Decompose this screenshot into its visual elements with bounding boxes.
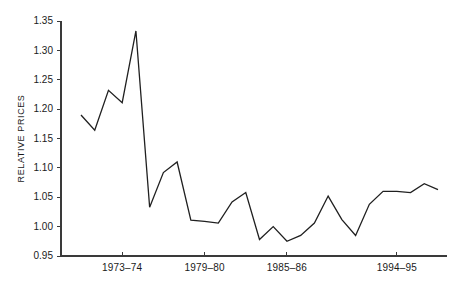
y-axis-title: RELATIVE PRICES [16,95,26,183]
y-axis-tick-label: 1.00 [34,221,54,232]
x-axis-tick-label: 1985–86 [267,262,308,273]
relative-prices-line-chart: 0.951.001.051.101.151.201.251.301.35 197… [0,0,455,290]
chart-canvas: 0.951.001.051.101.151.201.251.301.35 197… [0,0,455,290]
x-axis-tick-label: 1979–80 [184,262,225,273]
y-axis-tick-label: 1.25 [34,74,54,85]
data-series-line [81,31,438,241]
x-axis-tick-label: 1994–95 [377,262,418,273]
y-axis-tick-label: 1.10 [34,162,54,173]
y-axis-tick-label: 1.20 [34,103,54,114]
y-axis-tick-label: 1.05 [34,191,54,202]
y-axis-tick-label: 1.15 [34,133,54,144]
x-axis-tick-group: 1973–741979–801985–861994–95 [102,252,417,273]
y-axis-tick-label: 1.35 [34,15,54,26]
y-axis-tick-label: 1.30 [34,45,54,56]
x-axis-tick-label: 1973–74 [102,262,143,273]
y-axis-title-text: RELATIVE PRICES [16,95,26,183]
y-axis-tick-group: 0.951.001.051.101.151.201.251.301.35 [34,15,61,261]
y-axis-tick-label: 0.95 [34,250,54,261]
